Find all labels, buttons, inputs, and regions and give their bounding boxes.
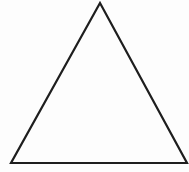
diagram-canvas: [0, 0, 189, 172]
triangle-diagram: [0, 0, 189, 172]
triangle-shape: [11, 3, 187, 163]
